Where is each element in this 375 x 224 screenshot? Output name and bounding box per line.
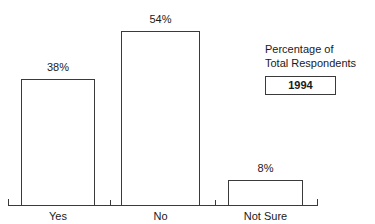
- axis-tick-1: [110, 200, 111, 206]
- legend-year-label: 1994: [288, 80, 312, 91]
- bar-value-label-yes: 38%: [21, 62, 95, 73]
- bar-value-label-not-sure: 8%: [228, 163, 303, 174]
- bar-not-sure[interactable]: [228, 180, 303, 206]
- bar-value-label-no: 54%: [121, 14, 200, 25]
- axis-tick-2: [215, 200, 216, 206]
- bar-no[interactable]: [121, 31, 200, 206]
- bar-chart: 38% 54% 8% Yes No Not Sure Percentage of…: [0, 0, 375, 224]
- axis-tick-end: [317, 199, 318, 206]
- bar-yes[interactable]: [21, 79, 95, 206]
- x-axis-label-yes: Yes: [21, 211, 95, 222]
- x-axis-line: [8, 205, 318, 206]
- x-axis-label-no: No: [121, 211, 200, 222]
- legend-caption-line-2: Total Respondents: [265, 56, 375, 70]
- legend: Percentage of Total Respondents 1994: [265, 42, 375, 95]
- axis-tick-start: [8, 199, 9, 206]
- legend-caption-line-1: Percentage of: [265, 42, 375, 56]
- plot-area: 38% 54% 8% Yes No Not Sure: [0, 0, 375, 224]
- x-axis-label-not-sure: Not Sure: [228, 211, 303, 222]
- legend-year-box: 1994: [265, 76, 336, 95]
